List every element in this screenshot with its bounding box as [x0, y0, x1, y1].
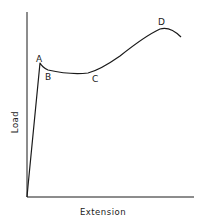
point-label-d: D [158, 17, 165, 27]
point-label-c: C [92, 74, 98, 84]
load-extension-chart: A B C D Load Extension [0, 0, 197, 224]
point-label-b: B [45, 72, 51, 82]
y-axis-label: Load [10, 111, 20, 133]
x-axis-label: Extension [80, 207, 126, 217]
load-curve [27, 28, 181, 197]
point-label-a: A [36, 54, 43, 64]
